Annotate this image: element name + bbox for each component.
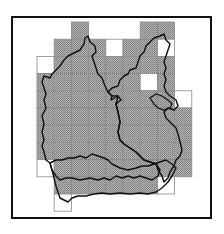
grid-cell-empty (54, 194, 71, 211)
grid-cell-shaded (175, 160, 192, 177)
grid-cell-shaded (89, 125, 106, 142)
distribution-map (0, 0, 224, 234)
grid-cell-shaded (71, 142, 88, 159)
grid-cell-shaded (157, 142, 174, 159)
grid-cell-shaded (54, 56, 71, 73)
grid-cell-shaded (123, 39, 140, 56)
grid-cell-empty (37, 56, 54, 73)
grid-cell-shaded (54, 91, 71, 108)
grid-cell-shaded (157, 56, 174, 73)
grid-cell-shaded (71, 56, 88, 73)
grid-cell-shaded (71, 39, 88, 56)
grid-cell-shaded (175, 142, 192, 159)
grid-cell-shaded (89, 39, 106, 56)
grid-cell-shaded (37, 108, 54, 125)
grid-cell-shaded (54, 160, 71, 177)
grid-cell-shaded (106, 142, 123, 159)
grid-cell-shaded (54, 108, 71, 125)
grid-cell-shaded (89, 160, 106, 177)
grid-cell-shaded (106, 56, 123, 73)
grid-cell-shaded (123, 177, 140, 194)
grid-cell-shaded (71, 125, 88, 142)
grid-cell-shaded (140, 108, 157, 125)
grid-cell-shaded (140, 142, 157, 159)
grid-cell-shaded (140, 125, 157, 142)
grid-cell-shaded (157, 125, 174, 142)
grid-cell-shaded (123, 91, 140, 108)
grid-cell-shaded (54, 142, 71, 159)
grid-cell-shaded (123, 160, 140, 177)
grid-cell-shaded (123, 108, 140, 125)
grid-cell-shaded (37, 125, 54, 142)
grid-cell-shaded (89, 91, 106, 108)
grid-cell-shaded (71, 74, 88, 91)
grid-cell-shaded (71, 160, 88, 177)
grid-cell-shaded (54, 125, 71, 142)
grid-cell-shaded (140, 22, 157, 39)
grid-cell-shaded (140, 56, 157, 73)
grid-cell-shaded (175, 108, 192, 125)
grid-cell-shaded (123, 74, 140, 91)
grid-cell-shaded (89, 108, 106, 125)
grid-cell-shaded (54, 39, 71, 56)
grid-cell-empty (140, 74, 157, 91)
grid-cell-empty (106, 39, 123, 56)
grid-cell-shaded (106, 74, 123, 91)
grid-cell-shaded (71, 108, 88, 125)
grid-cell-shaded (175, 125, 192, 142)
grid-cell-shaded (71, 91, 88, 108)
grid-cell-shaded (123, 125, 140, 142)
grid-cell-shaded (54, 74, 71, 91)
